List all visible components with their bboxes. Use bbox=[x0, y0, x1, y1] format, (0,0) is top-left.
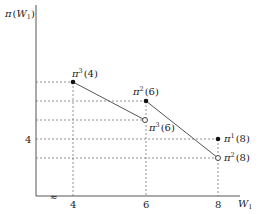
point-pi2-8 bbox=[216, 156, 221, 161]
axis-break-icon: ≈ bbox=[50, 192, 58, 202]
label-pi3-6: π3(6) bbox=[148, 121, 175, 133]
x-axis-label: W1 bbox=[238, 198, 252, 211]
label-pi2-8: π2(8) bbox=[223, 151, 250, 163]
label-pi2-6: π2(6) bbox=[132, 85, 159, 97]
point-pi1-8 bbox=[216, 137, 221, 142]
x-tick-6: 6 bbox=[143, 199, 149, 210]
y-tick-4: 4 bbox=[25, 134, 31, 145]
x-tick-8: 8 bbox=[215, 199, 221, 210]
label-pi1-8: π1(8) bbox=[223, 132, 250, 144]
point-pi3-6 bbox=[143, 118, 148, 123]
point-pi3-4 bbox=[71, 80, 76, 85]
y-axis-label: π(W1) bbox=[4, 8, 35, 21]
point-pi2-6 bbox=[144, 99, 149, 104]
label-pi3-4: π3(4) bbox=[71, 67, 98, 79]
payoff-diagram: ≈ π3(4) π2(6) π3(6) π1(8) π2(8) π(W1) W1… bbox=[0, 0, 263, 214]
segment-pi2 bbox=[146, 101, 218, 158]
x-tick-4: 4 bbox=[70, 199, 76, 210]
